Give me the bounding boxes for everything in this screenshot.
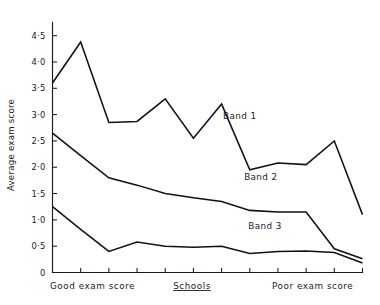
exam-score-line-chart: 00·51·01·52·02·53·03·54·04·5 Average exa… <box>0 0 380 305</box>
series-line-band-2 <box>53 133 363 259</box>
y-axis-title: Average exam score <box>6 99 16 191</box>
series-label-band-1: Band 1 <box>223 111 256 121</box>
x-axis-caption-right: Poor exam score <box>272 281 353 291</box>
series-label-band-2: Band 2 <box>244 172 277 182</box>
y-tick-label: 3·0 <box>32 110 46 120</box>
y-tick-label: 2·0 <box>32 162 46 172</box>
y-tick-label: 4·5 <box>32 31 46 41</box>
chart-svg: 00·51·01·52·02·53·03·54·04·5 Average exa… <box>0 0 380 305</box>
series-label-band-3: Band 3 <box>248 221 281 231</box>
chart-axes <box>52 23 363 274</box>
y-tick-label: 0·5 <box>32 241 46 251</box>
y-tick-label: 4·0 <box>32 57 46 67</box>
x-axis-title: Schools <box>173 281 211 291</box>
y-axis-tick-labels: 00·51·01·52·02·53·03·54·04·5 <box>32 31 46 278</box>
y-tick-label: 2·5 <box>32 136 46 146</box>
y-tick-label: 3·5 <box>32 83 46 93</box>
y-tick-label: 1·0 <box>32 215 46 225</box>
chart-series-layer <box>53 42 363 263</box>
x-axis-caption-left: Good exam score <box>50 281 135 291</box>
y-tick-label: 1·5 <box>32 189 46 199</box>
y-tick-label: 0 <box>40 268 46 278</box>
series-line-band-1 <box>53 42 363 215</box>
series-line-band-3 <box>53 207 363 263</box>
